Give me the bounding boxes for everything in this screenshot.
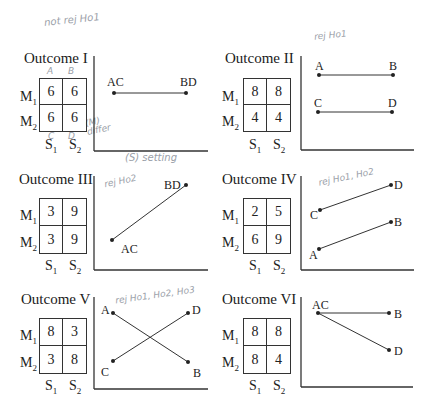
- point-label-d: D: [388, 96, 397, 111]
- col-label-s2: S2: [273, 137, 285, 155]
- cell-m2-s1: 4: [244, 105, 267, 131]
- row-label-m2: M2: [20, 355, 37, 373]
- row-label-m2: M2: [222, 355, 239, 373]
- row-label-m1: M1: [20, 208, 37, 226]
- cell-m2-s1: 6: [40, 105, 63, 131]
- point-label-c: C: [314, 96, 322, 111]
- outcome-5-table: 8 3 3 8: [39, 318, 87, 374]
- point-label-b: B: [389, 59, 397, 74]
- row-label-m2: M2: [20, 114, 37, 132]
- cell-m2-s1: 6: [244, 226, 267, 253]
- point-label-b: B: [394, 215, 402, 230]
- row-label-m1: M1: [20, 328, 37, 346]
- cell-m2-s2: 6: [63, 105, 86, 131]
- outcome-1-title: Outcome I: [24, 50, 88, 67]
- cell-m2-s2: 9: [63, 226, 86, 253]
- outcome-1-table: 6 6 6 6: [39, 78, 87, 132]
- point-label-ac: AC: [121, 242, 138, 257]
- col-label-s1: S1: [45, 378, 57, 396]
- row-label-m1: M1: [222, 89, 239, 107]
- point-label-c: C: [310, 208, 318, 223]
- col-label-s1: S1: [45, 258, 57, 276]
- note-not-rej-ho1: not rej Ho1: [44, 11, 101, 28]
- row-label-m1: M1: [222, 208, 239, 226]
- cell-m2-s2: 9: [267, 226, 290, 253]
- col-label-s1: S1: [249, 137, 261, 155]
- note-col-a: A: [47, 66, 53, 76]
- cell-m2-s2: 4: [267, 346, 290, 373]
- point-label-d: D: [394, 344, 403, 359]
- point-label-bd: BD: [180, 75, 197, 90]
- point-label-b: B: [394, 307, 402, 322]
- point-label-a: A: [309, 248, 318, 263]
- cell-m1-s1: 2: [244, 199, 267, 226]
- outcome-3-plot: [90, 172, 210, 276]
- col-label-s1: S1: [249, 258, 261, 276]
- col-label-s2: S2: [69, 378, 81, 396]
- outcome-6-title: Outcome VI: [222, 291, 296, 308]
- point-label-ac: AC: [312, 298, 329, 313]
- col-label-s1: S1: [249, 378, 261, 396]
- col-label-s1: S1: [45, 137, 57, 155]
- row-label-m2: M2: [20, 235, 37, 253]
- cell-m2-s1: 3: [40, 226, 63, 253]
- row-label-m1: M1: [20, 89, 37, 107]
- outcome-1-plot: [90, 52, 210, 156]
- outcome-4-title: Outcome IV: [222, 171, 297, 188]
- outcome-5-title: Outcome V: [21, 291, 90, 308]
- cell-m1-s2: 3: [63, 319, 86, 346]
- outcome-2-title: Outcome II: [225, 50, 294, 67]
- outcome-3-table: 3 9 3 9: [39, 198, 87, 254]
- row-label-m2: M2: [222, 235, 239, 253]
- point-label-d: D: [394, 178, 403, 193]
- cell-m2-s2: 4: [267, 105, 290, 131]
- point-label-d: D: [192, 303, 201, 318]
- outcome-6-table: 8 8 8 4: [243, 318, 291, 374]
- point-label-b: B: [193, 366, 201, 381]
- col-label-s2: S2: [273, 258, 285, 276]
- col-label-s2: S2: [273, 378, 285, 396]
- note-col-b: B: [68, 66, 74, 76]
- cell-m2-s1: 8: [244, 346, 267, 373]
- point-label-c: C: [101, 365, 109, 380]
- cell-m1-s1: 8: [40, 319, 63, 346]
- cell-m1-s2: 6: [63, 79, 86, 105]
- cell-m1-s2: 8: [267, 79, 290, 105]
- cell-m1-s1: 6: [40, 79, 63, 105]
- cell-m2-s1: 3: [40, 346, 63, 373]
- outcome-4-table: 2 5 6 9: [243, 198, 291, 254]
- note-rej-ho1: rej Ho1: [314, 28, 347, 41]
- col-label-s2: S2: [69, 137, 81, 155]
- point-label-a: A: [315, 59, 324, 74]
- cell-m1-s2: 5: [267, 199, 290, 226]
- cell-m1-s2: 8: [267, 319, 290, 346]
- cell-m1-s2: 9: [63, 199, 86, 226]
- cell-m2-s2: 8: [63, 346, 86, 373]
- outcome-3-title: Outcome III: [19, 171, 93, 188]
- row-label-m1: M1: [222, 328, 239, 346]
- point-label-ac: AC: [107, 75, 124, 90]
- cell-m1-s1: 8: [244, 319, 267, 346]
- row-label-m2: M2: [222, 114, 239, 132]
- outcome-2-table: 8 8 4 4: [243, 78, 291, 132]
- point-label-bd: BD: [164, 178, 181, 193]
- col-label-s2: S2: [69, 258, 81, 276]
- point-label-a: A: [101, 303, 110, 318]
- cell-m1-s1: 3: [40, 199, 63, 226]
- cell-m1-s1: 8: [244, 79, 267, 105]
